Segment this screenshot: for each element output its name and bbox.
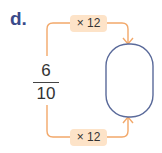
multiply-badge-bottom: × 12 [70,129,107,146]
fraction-denominator: 10 [33,85,59,103]
fraction-bar [33,82,59,83]
multiply-badge-top: × 12 [70,15,107,32]
fraction-numerator: 6 [33,62,59,80]
fraction: 6 10 [33,62,59,103]
answer-box[interactable] [106,44,153,117]
